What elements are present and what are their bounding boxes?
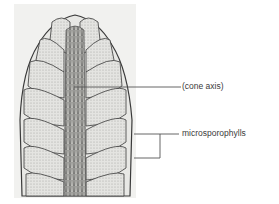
cone-section-illustration — [0, 0, 279, 204]
microsporophylls-right — [80, 18, 126, 196]
microsporophylls-left — [24, 18, 70, 196]
cone-axis — [64, 26, 86, 196]
cone-axis-label: (cone axis) — [182, 82, 224, 91]
microsporophylls-label: microsporophylls — [182, 129, 246, 138]
